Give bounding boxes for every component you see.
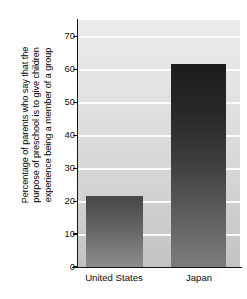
- y-tick-70: 70: [53, 30, 78, 42]
- bar-united-states[interactable]: [86, 196, 143, 267]
- y-tick-mark-20: [73, 201, 78, 202]
- plot-area: [78, 20, 240, 267]
- y-tick-mark-60: [73, 69, 78, 70]
- y-axis-label: Percentage of parents who say that the p…: [17, 0, 57, 250]
- y-axis-label-line-2: purpose of preschool is to give children: [31, 47, 43, 203]
- y-tick-mark-10: [73, 233, 78, 234]
- y-tick-10: 10: [53, 228, 78, 240]
- y-tick-50: 50: [53, 96, 78, 108]
- y-tick-60: 60: [53, 63, 78, 75]
- y-tick-mark-0: [73, 266, 78, 267]
- y-tick-20: 20: [53, 195, 78, 207]
- x-axis-line: [72, 267, 242, 268]
- y-tick-mark-30: [73, 168, 78, 169]
- bar-japan[interactable]: [171, 64, 226, 267]
- y-axis-label-line-1: Percentage of parents who say that the: [20, 47, 32, 203]
- bar-chart-figure: Percentage of parents who say that the p…: [0, 0, 247, 299]
- y-tick-mark-40: [73, 135, 78, 136]
- y-tick-mark-50: [73, 102, 78, 103]
- gridline-70: [78, 36, 240, 38]
- y-tick-40: 40: [53, 129, 78, 141]
- y-tick-mark-70: [73, 36, 78, 37]
- x-category-label-united-states: United States: [70, 272, 158, 284]
- y-tick-30: 30: [53, 162, 78, 174]
- x-category-label-japan: Japan: [163, 272, 235, 284]
